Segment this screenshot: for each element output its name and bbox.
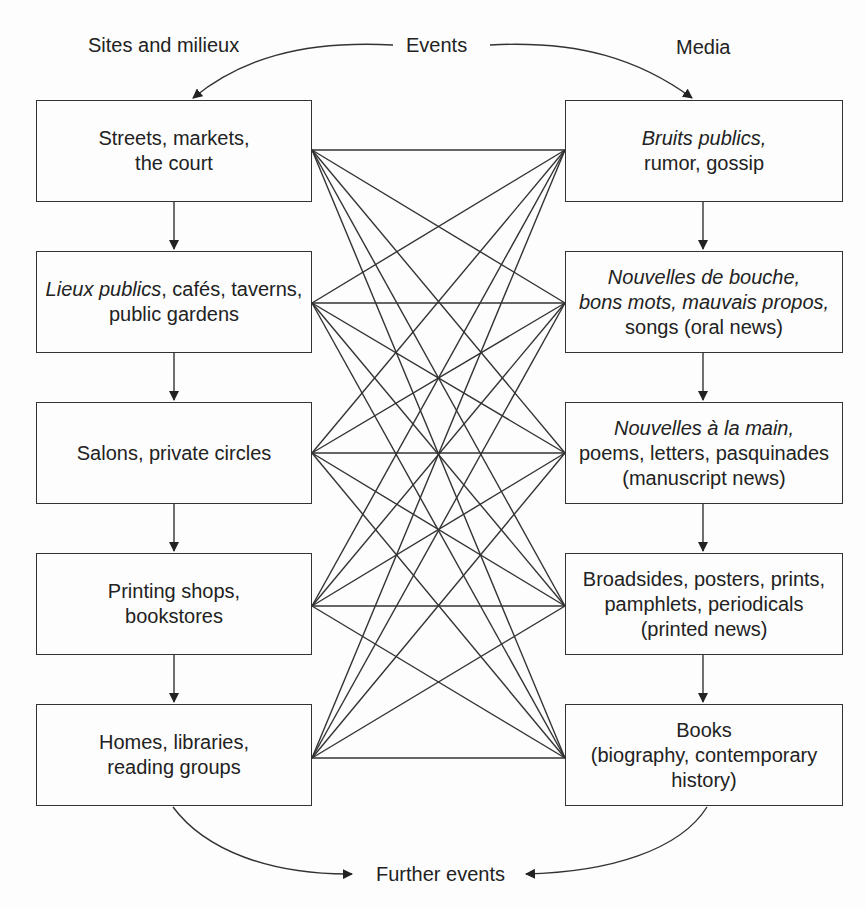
box-text-line: (biography, contemporary xyxy=(591,743,817,768)
box-text-line: the court xyxy=(135,151,213,176)
box-text-line: (manuscript news) xyxy=(622,466,785,491)
site-box-3: Salons, private circles xyxy=(36,402,312,504)
text-span: , cafés, taverns, xyxy=(161,278,302,300)
media-to-further-events-arrow xyxy=(526,807,707,874)
header-sites-and-milieux: Sites and milieux xyxy=(84,33,243,57)
site-box-5: Homes, libraries,reading groups xyxy=(36,704,312,806)
sites-to-further-events-arrow xyxy=(173,807,352,874)
text-span: Bruits publics, xyxy=(642,127,767,149)
header-media: Media xyxy=(672,35,734,59)
box-text-line: bookstores xyxy=(125,604,223,629)
site-box-2: Lieux publics, cafés, taverns,public gar… xyxy=(36,251,312,353)
text-span: pamphlets, periodicals xyxy=(605,593,804,615)
media-box-5: Books(biography, contemporaryhistory) xyxy=(565,704,843,806)
box-text-line: Books xyxy=(676,718,732,743)
box-text-line: Nouvelles à la main, xyxy=(614,416,794,441)
box-text-line: bons mots, mauvais propos, xyxy=(579,290,829,315)
box-text-line: (printed news) xyxy=(641,617,768,642)
media-box-1: Bruits publics,rumor, gossip xyxy=(565,100,843,202)
box-text-line: reading groups xyxy=(107,755,240,780)
box-text-line: history) xyxy=(671,768,737,793)
text-span: Streets, markets, xyxy=(98,127,249,149)
text-span: Broadsides, posters, prints, xyxy=(583,568,825,590)
further-events-label: Further events xyxy=(372,862,509,886)
text-span: reading groups xyxy=(107,756,240,778)
text-span: poems, letters, pasquinades xyxy=(579,442,829,464)
box-text-line: pamphlets, periodicals xyxy=(605,592,804,617)
box-text-line: rumor, gossip xyxy=(644,151,764,176)
text-span: rumor, gossip xyxy=(644,152,764,174)
text-span: public gardens xyxy=(109,303,239,325)
text-span: (manuscript news) xyxy=(622,467,785,489)
media-box-3: Nouvelles à la main,poems, letters, pasq… xyxy=(565,402,843,504)
box-text-line: Streets, markets, xyxy=(98,126,249,151)
text-span: Nouvelles de bouche, xyxy=(608,266,800,288)
text-span: Salons, private circles xyxy=(77,442,272,464)
box-text-line: public gardens xyxy=(109,302,239,327)
text-span: (printed news) xyxy=(641,618,768,640)
box-text-line: Nouvelles de bouche, xyxy=(608,265,800,290)
box-text-line: Homes, libraries, xyxy=(99,730,249,755)
text-span: Books xyxy=(676,719,732,741)
header-events: Events xyxy=(402,33,471,57)
text-span: history) xyxy=(671,769,737,791)
text-span: Homes, libraries, xyxy=(99,731,249,753)
box-text-line: poems, letters, pasquinades xyxy=(579,441,829,466)
box-text-line: Salons, private circles xyxy=(77,441,272,466)
text-span: Lieux publics xyxy=(46,278,162,300)
media-box-4: Broadsides, posters, prints,pamphlets, p… xyxy=(565,553,843,655)
box-text-line: Printing shops, xyxy=(108,579,240,604)
media-box-2: Nouvelles de bouche,bons mots, mauvais p… xyxy=(565,251,843,353)
box-text-line: songs (oral news) xyxy=(625,315,783,340)
text-span: bookstores xyxy=(125,605,223,627)
box-text-line: Bruits publics, xyxy=(642,126,767,151)
text-span: Nouvelles à la main, xyxy=(614,417,794,439)
events-to-media-arrow xyxy=(490,44,692,98)
site-box-4: Printing shops,bookstores xyxy=(36,553,312,655)
text-span: Printing shops, xyxy=(108,580,240,602)
box-text-line: Broadsides, posters, prints, xyxy=(583,567,825,592)
site-box-1: Streets, markets,the court xyxy=(36,100,312,202)
text-span: (biography, contemporary xyxy=(591,744,817,766)
text-span: songs (oral news) xyxy=(625,316,783,338)
text-span: bons mots, mauvais propos, xyxy=(579,291,829,313)
text-span: the court xyxy=(135,152,213,174)
box-text-line: Lieux publics, cafés, taverns, xyxy=(46,277,303,302)
